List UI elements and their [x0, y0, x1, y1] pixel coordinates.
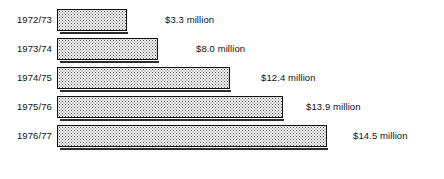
chart-row-1975-76: 1975/76 $13.9 million — [0, 95, 444, 119]
chart-row-1976-77: 1976/77 $14.5 million — [0, 124, 444, 148]
category-label-1974-75: 1974/75 — [0, 66, 52, 90]
value-label-1972-73: $3.3 million — [165, 8, 214, 32]
chart-row-1974-75: 1974/75 $12.4 million — [0, 66, 444, 90]
category-label-1973-74: 1973/74 — [0, 37, 52, 61]
chart-row-1972-73: 1972/73 $3.3 million — [0, 8, 444, 32]
value-label-1974-75: $12.4 million — [261, 66, 316, 90]
bar-chart: 1972/73 $3.3 million 1973/74 $8.0 millio… — [0, 0, 444, 179]
category-label-1976-77: 1976/77 — [0, 124, 52, 148]
value-label-1973-74: $8.0 million — [196, 37, 245, 61]
value-label-1975-76: $13.9 million — [306, 95, 361, 119]
category-label-1972-73: 1972/73 — [0, 8, 52, 32]
bar-1973-74 — [57, 38, 158, 60]
bar-1976-77 — [57, 125, 327, 147]
bar-1975-76 — [57, 96, 283, 118]
bar-1972-73 — [57, 9, 127, 31]
category-label-1975-76: 1975/76 — [0, 95, 52, 119]
value-label-1976-77: $14.5 million — [353, 124, 408, 148]
chart-row-1973-74: 1973/74 $8.0 million — [0, 37, 444, 61]
bar-1974-75 — [57, 67, 230, 89]
